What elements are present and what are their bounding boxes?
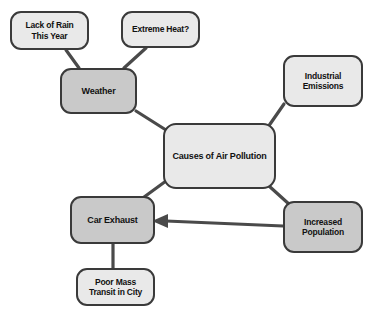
node-increased-population-line1: Increased	[300, 217, 346, 227]
node-increased-population-line2: Population	[300, 227, 346, 237]
connector-industrial-emissions-to-causes	[268, 104, 284, 127]
diagram-canvas: Lack of Rain This Year Extreme Heat? Wea…	[0, 0, 373, 311]
node-causes-of-air-pollution[interactable]: Causes of Air Pollution	[163, 123, 276, 189]
node-poor-mass-transit-line2: Transit in City	[87, 287, 144, 297]
connector-weather-to-causes	[136, 111, 166, 130]
node-causes-of-air-pollution-line1: Causes of Air Pollution	[170, 151, 268, 162]
node-extreme-heat[interactable]: Extreme Heat?	[121, 11, 200, 48]
node-weather-line1: Weather	[80, 86, 118, 97]
connector-increased-population-to-car-exhaust	[166, 221, 283, 226]
node-lack-of-rain-line2: This Year	[23, 31, 75, 41]
node-poor-mass-transit-line1: Poor Mass	[87, 277, 144, 287]
node-weather[interactable]: Weather	[60, 68, 137, 114]
node-car-exhaust-line1: Car Exhaust	[85, 215, 139, 226]
node-car-exhaust[interactable]: Car Exhaust	[70, 196, 155, 244]
node-lack-of-rain[interactable]: Lack of Rain This Year	[10, 11, 89, 50]
connector-extreme-heat-to-weather	[124, 48, 146, 68]
node-lack-of-rain-line1: Lack of Rain	[23, 20, 75, 30]
node-industrial-emissions-line1: Industrial	[301, 71, 346, 81]
node-industrial-emissions[interactable]: Industrial Emissions	[283, 55, 363, 107]
node-increased-population[interactable]: Increased Population	[283, 201, 363, 253]
connector-lack-of-rain-to-weather	[66, 50, 79, 68]
node-poor-mass-transit[interactable]: Poor Mass Transit in City	[76, 268, 155, 306]
node-industrial-emissions-line2: Emissions	[301, 81, 346, 91]
node-extreme-heat-line1: Extreme Heat?	[130, 24, 191, 34]
